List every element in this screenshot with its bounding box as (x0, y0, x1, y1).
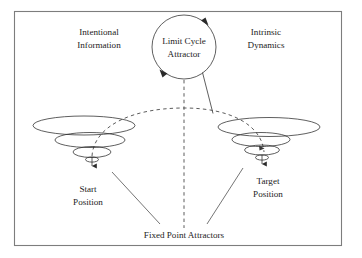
start-position-label-line2: Position (73, 197, 103, 207)
coupling-line (203, 73, 214, 114)
limit-cycle-rotation-arrow-top (201, 18, 209, 26)
dynamical-systems-diagram: Limit Cycle Attractor Intentional Inform… (0, 0, 362, 258)
intentional-information-label-line1: Intentional (79, 27, 119, 37)
limit-cycle-label-line1: Limit Cycle (162, 36, 206, 46)
target-position-attractor (218, 118, 320, 165)
intrinsic-dynamics-label-line1: Intrinsic (251, 27, 281, 37)
target-position-label-line2: Position (253, 189, 283, 199)
figure-root: Limit Cycle Attractor Intentional Inform… (0, 0, 362, 258)
start-position-label-line1: Start (79, 184, 97, 194)
fixed-point-attractors-caption: Fixed Point Attractors (144, 230, 225, 240)
trajectory-dashed-arc (92, 108, 264, 156)
intrinsic-dynamics-label-line2: Dynamics (248, 40, 285, 50)
target-attractor-ellipse-outer (218, 118, 320, 137)
start-attractor-ellipse-outer (33, 116, 135, 135)
start-position-attractor (33, 116, 135, 166)
target-position-label-line1: Target (257, 176, 280, 186)
limit-cycle-rotation-arrow-bottom (160, 70, 168, 78)
limit-cycle-label-line2: Attractor (168, 49, 201, 59)
limit-cycle-attractor-circle (152, 15, 216, 79)
caption-leader-left (112, 172, 160, 224)
intentional-information-label-line2: Information (77, 40, 121, 50)
caption-leader-right (207, 168, 243, 224)
figure-border (15, 12, 342, 246)
